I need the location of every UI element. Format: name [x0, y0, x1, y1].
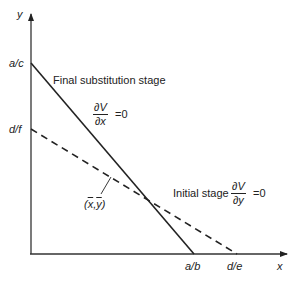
initial-stage-numerator: ∂V: [231, 181, 246, 194]
final-stage-caption: Final substitution stage: [53, 75, 166, 86]
y-axis-label: y: [17, 9, 23, 20]
intersection-close: ): [102, 198, 106, 210]
y-intercept-solid: a/c: [9, 58, 24, 69]
y-intercept-dashed: d/f: [9, 124, 21, 135]
x-axis-label: x: [277, 261, 283, 272]
diagram-canvas: [0, 0, 293, 281]
x-intercept-dashed: d/e: [227, 261, 242, 272]
initial-stage-rhs: =0: [253, 188, 266, 199]
final-stage-numerator: ∂V: [93, 102, 108, 115]
final-stage-rhs: =0: [115, 109, 128, 120]
final-stage-denominator: ∂x: [94, 115, 107, 127]
initial-stage-denominator: ∂y: [232, 194, 245, 206]
x-intercept-solid: a/b: [185, 261, 200, 272]
intersection-leader: [101, 177, 111, 194]
initial-stage-condition: ∂V ∂y: [231, 181, 246, 206]
initial-stage-caption: Initial stage: [173, 188, 229, 199]
final-stage-line: [31, 63, 194, 254]
final-stage-condition: ∂V ∂x: [93, 102, 108, 127]
intersection-label: (x,y): [84, 199, 105, 210]
